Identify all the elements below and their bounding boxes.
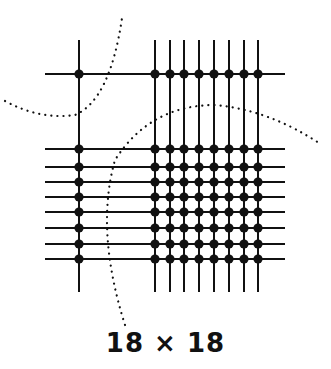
intersection-dot [194,162,203,171]
intersection-dot [194,69,203,78]
top-left-arc-curve [5,18,122,116]
intersection-dot [253,207,262,216]
intersection-dot [179,239,188,248]
intersection-dot [165,177,174,186]
intersection-dot [150,239,159,248]
intersection-dot [179,144,188,153]
intersection-dot [239,162,248,171]
intersection-dot [253,162,262,171]
intersection-dot [224,69,233,78]
intersection-dot [253,239,262,248]
intersection-dot [150,207,159,216]
intersection-dot [209,162,218,171]
intersection-dot [209,254,218,263]
intersection-dot [194,177,203,186]
intersection-dot [179,207,188,216]
intersection-dot [165,254,174,263]
intersection-dot [209,223,218,232]
intersection-dot [224,144,233,153]
intersection-dot [179,69,188,78]
intersection-dot [165,207,174,216]
intersection-dot [224,177,233,186]
intersection-dot [239,69,248,78]
intersection-dot [150,144,159,153]
intersection-dot [239,254,248,263]
intersection-dot [209,177,218,186]
intersection-dot [224,192,233,201]
intersection-dot [239,223,248,232]
intersection-dot [209,192,218,201]
intersection-dot [165,192,174,201]
intersection-dot [224,239,233,248]
intersection-dot [239,207,248,216]
intersection-dot [179,177,188,186]
intersection-dot [239,177,248,186]
intersection-dot [150,223,159,232]
intersection-dot [194,192,203,201]
intersection-dot [165,223,174,232]
intersection-dot [224,162,233,171]
intersection-dot [194,239,203,248]
intersection-dot [209,207,218,216]
intersection-dot [74,239,83,248]
intersection-dot [179,254,188,263]
intersection-dot [165,144,174,153]
intersection-dot [194,144,203,153]
intersection-dot [209,239,218,248]
intersection-dot [74,69,83,78]
intersection-dot [179,162,188,171]
intersection-dot [165,162,174,171]
intersection-dot [194,207,203,216]
intersection-dot [179,223,188,232]
intersection-dot [194,223,203,232]
intersection-dot [239,192,248,201]
intersection-dot [165,69,174,78]
intersection-dot [253,223,262,232]
intersection-dot [74,192,83,201]
intersection-dot [74,162,83,171]
intersection-dot [239,239,248,248]
intersection-dot [239,144,248,153]
intersection-dot [194,254,203,263]
intersection-dot [74,254,83,263]
grid-diagram [0,0,331,369]
intersection-dot [74,207,83,216]
intersection-dot [150,254,159,263]
intersection-dot [74,223,83,232]
intersection-dot [150,162,159,171]
dotted-curves [5,18,322,325]
intersection-dot [74,144,83,153]
intersection-dot [150,192,159,201]
intersection-dot [209,69,218,78]
intersection-dot [224,254,233,263]
intersection-dot [150,69,159,78]
intersection-dot [224,207,233,216]
intersection-dot [253,69,262,78]
intersection-dot [253,192,262,201]
intersection-dot [253,144,262,153]
intersection-dot [150,177,159,186]
intersection-dot [209,144,218,153]
intersection-dot [224,223,233,232]
caption-label: 18 × 18 [0,328,331,358]
intersection-dot [179,192,188,201]
intersection-dot [74,177,83,186]
intersection-dot [165,239,174,248]
intersection-dot [253,254,262,263]
intersection-dot [253,177,262,186]
